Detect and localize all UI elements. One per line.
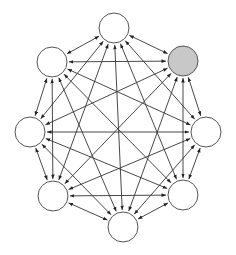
node-top	[99, 13, 129, 43]
node-upper-left	[37, 47, 67, 77]
node-upper-right-highlighted	[168, 46, 198, 76]
edge-lower-right-lower-left	[70, 195, 166, 196]
edge-top-upper-left	[67, 36, 99, 54]
node-bottom	[108, 212, 138, 242]
node-left	[15, 117, 45, 147]
nodes-layer	[15, 13, 221, 242]
edge-lower-left-upper-left	[52, 79, 53, 179]
node-right	[191, 117, 221, 147]
edge-lower-right-left	[46, 138, 168, 188]
edge-lower-left-left	[36, 148, 48, 180]
edge-upper-right-right	[188, 77, 201, 116]
edge-lower-right-bottom	[138, 203, 168, 219]
edge-right-lower-right	[189, 148, 200, 179]
node-lower-left	[38, 181, 68, 211]
edge-right-lower-left	[69, 139, 191, 190]
complete-graph-diagram	[0, 0, 236, 255]
edge-left-upper-left	[35, 78, 47, 116]
edge-top-upper-right	[129, 35, 167, 53]
edge-upper-right-upper-left	[69, 61, 166, 62]
node-lower-right	[168, 180, 198, 210]
